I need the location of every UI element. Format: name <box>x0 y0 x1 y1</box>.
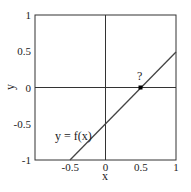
x-axis-label: x <box>102 169 108 183</box>
y-tick-label: 1 <box>26 9 32 21</box>
y-tick-label: -1 <box>22 154 31 166</box>
question-label: ? <box>137 69 142 83</box>
x-tick-label: 1 <box>173 161 179 173</box>
y-axis-label: y <box>3 84 17 90</box>
chart: -1-0.500.51 -0.500.51 y = f(x) ? x y <box>0 0 191 192</box>
y-tick-label: 0 <box>26 82 32 94</box>
intersection-marker <box>139 86 143 90</box>
series-label: y = f(x) <box>55 129 92 143</box>
y-tick-label: 0.5 <box>17 45 31 57</box>
x-tick-label: 0.5 <box>134 161 148 173</box>
y-tick-label: -0.5 <box>14 118 32 130</box>
series-line <box>70 52 176 160</box>
x-tick-label: -0.5 <box>62 161 80 173</box>
